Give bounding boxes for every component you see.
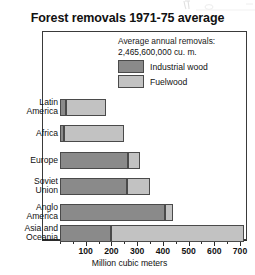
x-tick-label-700: 700 <box>223 246 255 256</box>
x-tick-minor <box>99 241 100 244</box>
x-tick-minor <box>124 241 125 244</box>
scan-artifact <box>182 0 255 11</box>
legend-caption-line-2: 2,465,600,000 cu. m. <box>118 47 246 58</box>
x-tick-minor <box>176 241 177 244</box>
x-tick-minor <box>60 241 61 244</box>
chart-title: Forest removals 1971-75 average <box>0 11 255 25</box>
chart-legend: Average annual removals: 2,465,600,000 c… <box>118 36 246 88</box>
legend-swatch-fuelwood <box>118 75 144 88</box>
legend-label-fuelwood: Fuelwood <box>150 77 187 87</box>
x-tick-minor <box>150 241 151 244</box>
legend-item-fuelwood[interactable]: Fuelwood <box>118 75 246 88</box>
x-axis-title: Million cubic meters <box>42 258 217 268</box>
legend-item-industrial-wood[interactable]: Industrial wood <box>118 60 246 73</box>
legend-swatch-industrial-wood <box>118 60 144 73</box>
x-tick-minor <box>73 241 74 244</box>
legend-caption-line-1: Average annual removals: <box>118 36 246 47</box>
legend-label-industrial-wood: Industrial wood <box>150 62 208 72</box>
x-tick-minor <box>201 241 202 244</box>
x-tick-minor <box>227 241 228 244</box>
